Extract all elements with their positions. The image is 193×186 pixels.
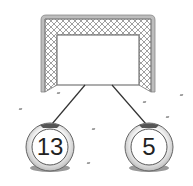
ball-right-value: 5 — [129, 133, 169, 161]
soccer-goal — [41, 15, 155, 92]
ball-left-value: 13 — [30, 133, 70, 161]
goal-answer-box — [57, 35, 139, 85]
bond-line-right — [112, 85, 146, 124]
bond-line-left — [52, 85, 85, 124]
